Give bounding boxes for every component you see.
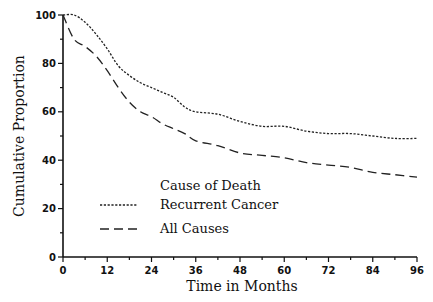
x-tick-label: 72 [322, 265, 336, 276]
all-causes-line [63, 15, 417, 177]
x-tick-label: 84 [366, 265, 380, 276]
x-tick-label: 60 [277, 265, 291, 276]
x-tick-label: 36 [189, 265, 203, 276]
legend-title: Cause of Death [160, 178, 261, 193]
survival-chart: 02040608010001224364860728496 Cause of D… [0, 0, 433, 302]
y-tick-label: 40 [42, 155, 56, 166]
y-tick-label: 0 [49, 252, 56, 263]
y-axis-title: Cumulative Proportion [11, 55, 27, 217]
legend-label: Recurrent Cancer [160, 197, 279, 212]
y-tick-label: 60 [42, 106, 56, 117]
y-tick-label: 80 [42, 58, 56, 69]
y-tick-label: 20 [42, 203, 56, 214]
recurrent-cancer-line [63, 14, 417, 138]
x-tick-label: 48 [233, 265, 247, 276]
legend-label: All Causes [159, 221, 229, 236]
x-tick-label: 0 [60, 265, 67, 276]
x-tick-label: 96 [410, 265, 424, 276]
legend: Cause of DeathRecurrent CancerAll Causes [100, 178, 279, 236]
series-lines [63, 14, 417, 177]
axes: 02040608010001224364860728496 [35, 10, 424, 277]
y-tick-label: 100 [35, 10, 56, 21]
x-tick-label: 12 [100, 265, 114, 276]
x-axis-title: Time in Months [186, 278, 297, 294]
x-tick-label: 24 [145, 265, 159, 276]
